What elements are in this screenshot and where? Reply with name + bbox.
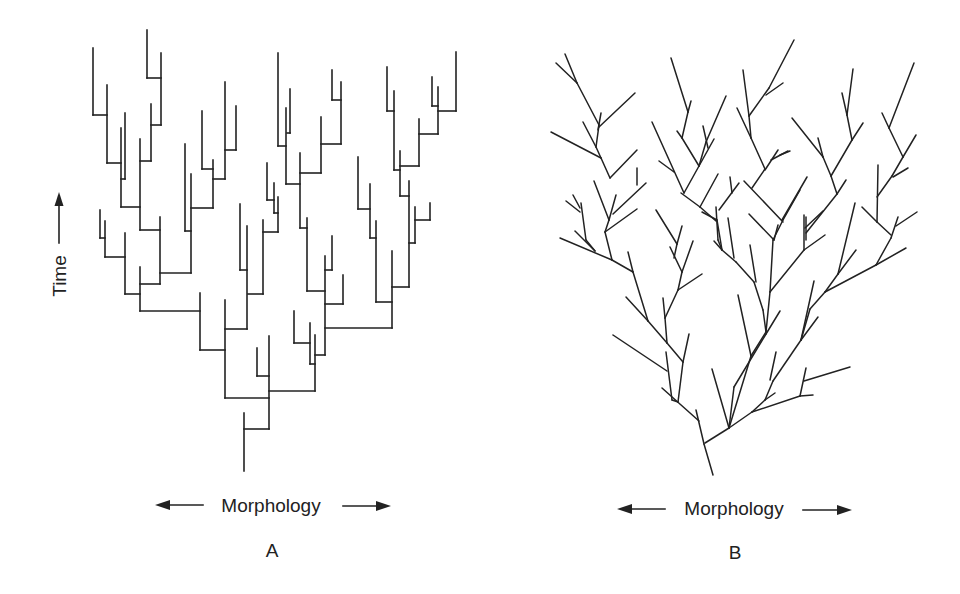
tree-b-branch	[780, 151, 790, 155]
tree-b-branch	[769, 40, 794, 88]
tree-b-branch	[684, 166, 699, 193]
tree-b-branch	[719, 183, 739, 210]
tree-b-branch	[665, 290, 678, 318]
tree-b-branch	[751, 332, 766, 356]
tree-b-branch	[823, 157, 831, 176]
tree-b-branch	[613, 335, 667, 371]
tree-b-branch	[665, 318, 667, 343]
time-axis-label: Time	[49, 255, 70, 297]
tree-b-branch	[800, 368, 806, 396]
tree-b-branch	[613, 183, 646, 214]
tree-b-branch	[573, 195, 580, 208]
arrow-right-icon	[837, 505, 852, 515]
tree-b-branch	[663, 298, 665, 318]
tree-b-branch	[877, 165, 878, 222]
panel-label-a: A	[266, 540, 279, 561]
tree-b-branch	[683, 334, 689, 362]
tree-b-branch	[700, 174, 718, 207]
tree-b-branch	[877, 176, 892, 197]
tree-b-branch	[752, 169, 765, 188]
panel-label-b: B	[729, 542, 742, 563]
tree-b-branch	[734, 334, 766, 387]
tree-b-branch	[754, 282, 763, 310]
tree-b-diagonal-phylogeny	[551, 40, 917, 475]
tree-b-branch	[749, 88, 769, 116]
tree-b-branch	[678, 362, 683, 402]
tree-b-branch	[696, 410, 704, 444]
tree-b-branch	[677, 131, 682, 138]
tree-b-branch	[847, 69, 853, 115]
tree-b-branch	[752, 396, 800, 412]
tree-b-branch	[765, 150, 778, 170]
tree-b-branch	[831, 176, 837, 194]
tree-b-branch	[800, 395, 813, 396]
tree-b-branch	[730, 177, 732, 193]
tree-b-branch	[605, 232, 612, 260]
tree-b-branch	[804, 235, 825, 250]
tree-b-branch	[892, 157, 903, 176]
tree-b-branch	[671, 58, 688, 112]
tree-b-branch	[594, 181, 609, 220]
phylogeny-figure: Time Morphology A Morphology B	[0, 0, 960, 594]
tree-b-branch	[852, 123, 863, 140]
tree-b-branch	[825, 265, 876, 292]
tree-b-branch	[609, 195, 616, 220]
tree-b-branch	[729, 356, 751, 428]
tree-b-branch	[556, 63, 577, 83]
tree-b-branch	[681, 193, 700, 207]
tree-b-branch	[882, 113, 889, 128]
tree-b-branch	[610, 150, 637, 178]
tree-b-branch	[810, 292, 825, 309]
tree-b-branch	[738, 295, 751, 356]
tree-b-branch	[662, 388, 699, 421]
tree-a-rectangular-phylogeny	[93, 30, 456, 471]
tree-b-branch	[770, 352, 776, 380]
tree-b-branch	[891, 217, 898, 238]
tree-b-branch	[804, 367, 850, 381]
tree-b-branch	[770, 240, 773, 292]
tree-b-branch	[766, 292, 770, 332]
tree-b-branch	[706, 96, 726, 142]
tree-b-branch	[652, 122, 684, 193]
tree-b-branch	[667, 343, 683, 362]
tree-b-branch	[682, 138, 699, 166]
tree-b-branch	[605, 209, 637, 232]
tree-b-branch	[763, 310, 766, 332]
tree-b-branch	[806, 194, 837, 233]
tree-b-branch	[565, 54, 577, 83]
tree-b-branch	[581, 203, 586, 240]
tree-b-branch	[896, 212, 917, 226]
tree-b-branch	[773, 340, 801, 381]
tree-b-branch	[601, 158, 610, 178]
tree-b-branch	[577, 83, 599, 125]
tree-b-branch	[656, 210, 677, 244]
tree-b-branch	[728, 218, 734, 258]
time-arrow-up-icon	[55, 192, 64, 206]
tree-b-branch	[805, 211, 823, 228]
tree-b-branch	[583, 122, 596, 147]
morphology-axis-a: Morphology A	[155, 495, 391, 561]
tree-b-branch	[749, 214, 774, 240]
tree-b-branch	[682, 241, 693, 272]
tree-b-branch	[736, 262, 754, 282]
tree-b-branch	[743, 70, 749, 116]
tree-b-branch	[677, 226, 682, 244]
time-axis: Time	[49, 192, 70, 297]
tree-b-branch	[862, 207, 877, 222]
tree-b-branch	[831, 140, 852, 176]
tree-b-branch	[782, 177, 807, 220]
tree-b-branch	[648, 321, 667, 343]
tree-b-branch	[770, 250, 804, 292]
morphology-axis-b: Morphology B	[617, 498, 852, 563]
tree-b-branch	[704, 444, 713, 475]
morphology-axis-label-a: Morphology	[221, 495, 321, 516]
tree-b-branch	[889, 63, 914, 128]
tree-b-branch	[903, 135, 916, 157]
tree-b-branch	[837, 180, 846, 194]
tree-b-branch	[847, 115, 852, 140]
tree-b-branch	[712, 369, 729, 428]
arrow-right-icon	[376, 501, 391, 511]
tree-b-branch	[705, 428, 729, 443]
tree-b-branch	[751, 138, 765, 169]
tree-b-branch	[842, 93, 847, 115]
